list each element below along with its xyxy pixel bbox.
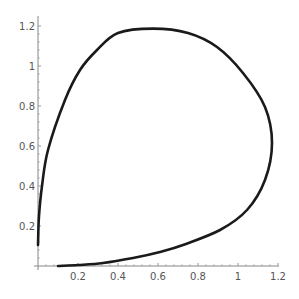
y-tick-label: 0.8 (19, 101, 35, 112)
x-tick-label: 1 (235, 271, 241, 282)
y-tick-label: 0.4 (19, 181, 35, 192)
x-tick-label: 0.6 (150, 271, 166, 282)
x-tick-label: 0.4 (110, 271, 126, 282)
x-tick-label: 0.8 (190, 271, 206, 282)
y-tick-label: 1.2 (19, 21, 35, 32)
curve-line (38, 29, 272, 266)
y-tick-label: 0.6 (19, 141, 35, 152)
chart: 0.20.40.60.811.2 0.20.40.60.811.2 (0, 0, 299, 299)
x-tick-label: 1.2 (270, 271, 286, 282)
x-tick-label: 0.2 (70, 271, 86, 282)
y-tick-label: 0.2 (19, 221, 35, 232)
y-tick-label: 1 (29, 61, 35, 72)
